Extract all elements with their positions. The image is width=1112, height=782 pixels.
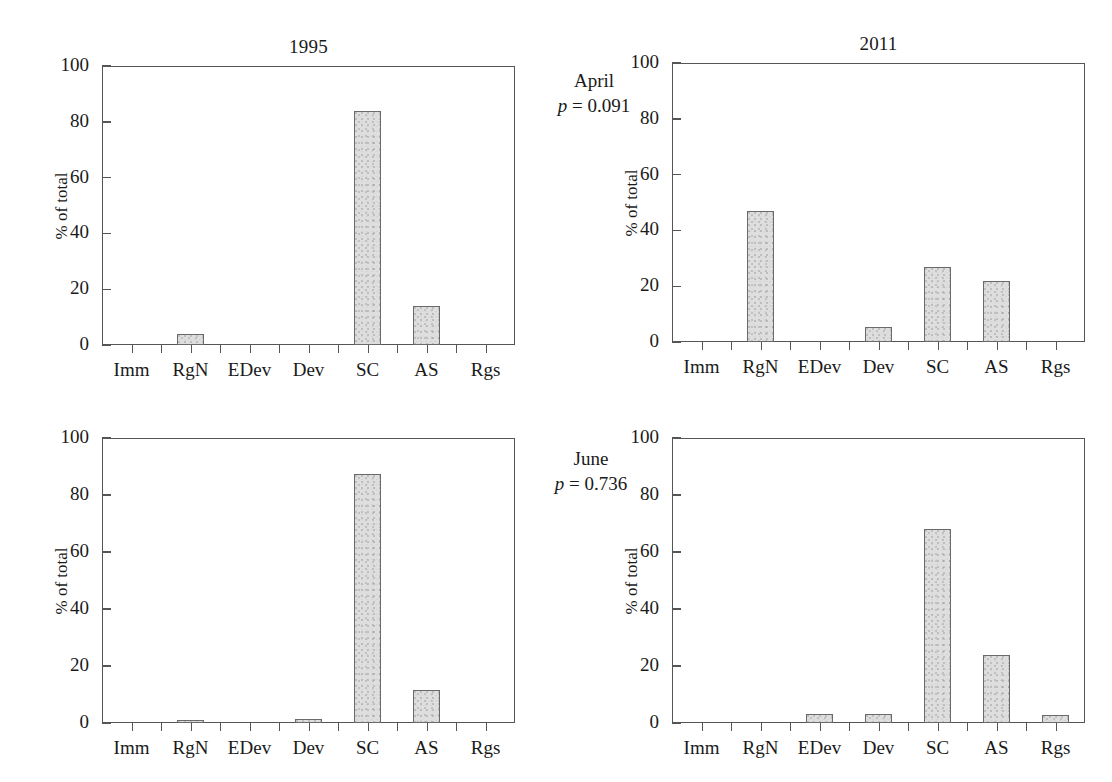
x-tick-mark [309,345,310,353]
y-tick-label: 80 [70,483,89,505]
row-annotation-pvalue: p = 0.091 [530,93,658,118]
figure-root: 1995 % of total 020406080100ImmRgNEDevDe… [0,0,1112,782]
x-tick-mark [938,342,939,350]
x-tick-label: SC [356,737,379,759]
x-tick-mark [938,723,939,731]
x-tick-label: Rgs [471,737,501,759]
y-tick-label: 40 [640,218,659,240]
plot-frame [102,438,515,723]
x-tick-mark [250,723,251,731]
x-tick-label: Imm [114,359,150,381]
x-tick-label: AS [414,737,438,759]
p-symbol: p [558,95,568,116]
bar [865,714,892,723]
x-tick-mark [486,723,487,731]
bar [983,655,1010,723]
x-tick-label: RgN [743,356,779,378]
x-tick-mark [397,723,398,731]
bar [865,327,892,342]
x-tick-mark [820,342,821,350]
x-tick-mark [761,342,762,350]
y-tick-label: 100 [61,54,90,76]
x-tick-mark [456,345,457,353]
x-tick-mark [279,723,280,731]
y-tick-label: 20 [640,654,659,676]
row-annotation-april: April p = 0.091 [530,68,658,118]
x-tick-mark [250,345,251,353]
x-tick-mark [368,723,369,731]
x-tick-mark [397,345,398,353]
y-tick-label: 20 [70,277,89,299]
x-tick-mark [132,723,133,731]
x-tick-label: EDev [228,737,271,759]
x-tick-mark [997,723,998,731]
y-tick-label: 60 [70,166,89,188]
y-tick-label: 20 [70,654,89,676]
y-tick-label: 100 [631,426,660,448]
bar [806,714,833,723]
x-tick-mark [338,345,339,353]
bar [413,306,440,345]
y-tick-mark [672,608,681,609]
x-tick-mark [220,345,221,353]
y-tick-mark [672,62,681,63]
x-tick-label: Rgs [1041,356,1071,378]
y-tick-mark [102,233,111,234]
x-tick-mark [731,723,732,731]
x-tick-label: Dev [863,356,895,378]
y-tick-label: 0 [80,711,90,733]
y-tick-label: 40 [70,221,89,243]
y-axis-label: % of total [622,547,642,614]
panel-june-1995: % of total 020406080100ImmRgNEDevDevSCAS… [102,438,515,723]
panel-june-2011: % of total 020406080100ImmRgNEDevDevSCAS… [672,438,1085,723]
x-tick-mark [427,723,428,731]
x-tick-label: RgN [173,359,209,381]
x-tick-mark [220,723,221,731]
bar [924,529,951,723]
panel-april-1995: 1995 % of total 020406080100ImmRgNEDevDe… [102,66,515,345]
x-tick-mark [486,345,487,353]
x-tick-mark [279,345,280,353]
x-tick-mark [820,723,821,731]
y-tick-label: 60 [640,540,659,562]
row-annotation-june: June p = 0.736 [527,446,655,496]
y-tick-label: 80 [70,110,89,132]
y-tick-label: 0 [650,330,660,352]
bar [1042,715,1069,723]
x-tick-mark [702,723,703,731]
y-tick-mark [672,551,681,552]
y-axis-label: % of total [52,547,72,614]
x-tick-label: Dev [293,359,325,381]
x-tick-label: Rgs [1041,737,1071,759]
x-tick-mark [967,723,968,731]
x-tick-mark [790,723,791,731]
y-tick-mark [672,118,681,119]
x-tick-label: RgN [743,737,779,759]
x-tick-mark [761,723,762,731]
y-tick-mark [102,722,111,723]
x-tick-label: SC [356,359,379,381]
x-tick-mark [368,345,369,353]
y-tick-mark [672,341,681,342]
y-tick-mark [672,286,681,287]
x-tick-label: AS [414,359,438,381]
x-tick-label: Imm [684,356,720,378]
y-tick-label: 0 [80,333,90,355]
p-value-text: = 0.736 [564,473,627,494]
x-tick-mark [338,723,339,731]
y-tick-mark [102,289,111,290]
x-tick-mark [908,723,909,731]
x-tick-label: AS [984,356,1008,378]
x-tick-mark [702,342,703,350]
y-tick-label: 0 [650,711,660,733]
x-tick-label: RgN [173,737,209,759]
bar [177,720,204,723]
y-tick-mark [672,230,681,231]
plot-frame [672,63,1085,342]
x-tick-mark [790,342,791,350]
x-tick-mark [1056,723,1057,731]
x-tick-mark [879,723,880,731]
y-axis-label: % of total [622,169,642,236]
x-tick-mark [1026,342,1027,350]
x-tick-mark [1026,723,1027,731]
